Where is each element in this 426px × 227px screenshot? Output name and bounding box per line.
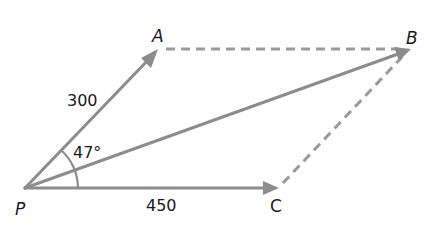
label-magnitude-pc: 450 xyxy=(146,196,177,215)
label-point-b: B xyxy=(406,28,418,48)
label-point-c: C xyxy=(270,196,282,216)
label-angle: 47° xyxy=(73,143,101,162)
arrowhead-b-icon xyxy=(394,47,411,61)
label-point-a: A xyxy=(151,26,164,46)
dashed-edge-cb xyxy=(283,57,402,183)
vector-pa xyxy=(25,49,158,188)
arrowhead-c-icon xyxy=(263,181,279,195)
vector-parallelogram-diagram: A B P C 300 450 47° xyxy=(0,0,426,227)
vector-pb xyxy=(25,47,411,188)
label-magnitude-pa: 300 xyxy=(67,91,98,110)
label-point-p: P xyxy=(15,199,26,219)
vector-pc xyxy=(25,181,279,195)
